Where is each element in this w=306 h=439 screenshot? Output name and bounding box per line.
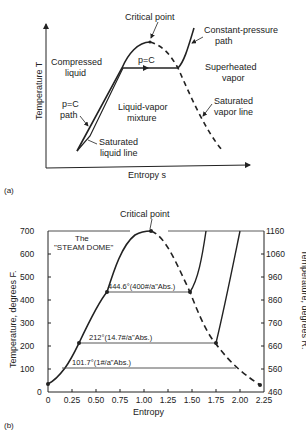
- svg-text:1.50: 1.50: [184, 395, 201, 405]
- svg-text:100: 100: [20, 364, 34, 374]
- b-critical-point-label: Critical point: [120, 209, 170, 219]
- svg-text:1160: 1160: [266, 226, 285, 236]
- a-compressed-liquid-label: Compressed: [51, 57, 102, 67]
- svg-text:0.25: 0.25: [64, 395, 81, 405]
- b-isobar-101-label: 101.7°(1#/a"Abs.): [72, 358, 132, 367]
- svg-text:1.25: 1.25: [160, 395, 177, 405]
- svg-text:0: 0: [46, 395, 51, 405]
- a-superheated-label: Superheated: [205, 62, 257, 72]
- b-panel-label: (b): [4, 421, 14, 430]
- b-superheat-400: [190, 231, 206, 292]
- svg-text:1.75: 1.75: [208, 395, 225, 405]
- a-constant-pressure-label: Constant-pressure: [204, 25, 278, 35]
- diagram-canvas: Critical point Constant-pressure path Co…: [0, 0, 306, 439]
- svg-text:500: 500: [20, 272, 34, 282]
- b-y-axis-right-label: Temperature, degrees R.: [300, 250, 306, 350]
- a-saturated-liquid-label: Saturated: [99, 137, 138, 147]
- a-mixture-label: Liquid-vapor: [118, 102, 168, 112]
- svg-text:0.50: 0.50: [88, 395, 105, 405]
- a-critical-point-dot: [149, 41, 152, 44]
- svg-text:860: 860: [268, 295, 282, 305]
- diagram-a: Critical point Constant-pressure path Co…: [4, 12, 278, 195]
- a-saturated-vapor-label: Saturated: [214, 96, 253, 106]
- svg-text:960: 960: [268, 272, 282, 282]
- b-critical-point-dot: [149, 229, 153, 233]
- svg-text:liquid line: liquid line: [100, 148, 138, 158]
- b-steam-dome-the: The: [75, 234, 89, 243]
- svg-text:600: 600: [20, 249, 34, 259]
- svg-text:1060: 1060: [266, 249, 285, 259]
- b-y-ticks-right: 1160 1060 960 860 760 660 560 460: [261, 226, 285, 397]
- b-steam-dome-label: "STEAM DOME": [54, 243, 114, 252]
- a-x-axis-label: Entropy s: [128, 170, 167, 180]
- svg-text:0: 0: [37, 387, 42, 397]
- a-pc-top-label: p=C: [138, 55, 155, 65]
- a-critical-point-label: Critical point: [125, 12, 175, 22]
- svg-text:300: 300: [20, 318, 34, 328]
- svg-text:vapor: vapor: [222, 73, 245, 83]
- svg-text:vapor line: vapor line: [214, 107, 253, 117]
- b-x-axis-label: Entropy: [133, 407, 165, 417]
- svg-text:560: 560: [268, 364, 282, 374]
- a-saturated-vapor-line: [150, 42, 222, 150]
- svg-text:path: path: [215, 36, 233, 46]
- svg-text:760: 760: [268, 318, 282, 328]
- svg-text:path: path: [60, 110, 78, 120]
- b-superheat-14: [216, 231, 240, 343]
- a-panel-label: (a): [4, 186, 14, 195]
- svg-text:mixture: mixture: [127, 113, 157, 123]
- a-pc-path-label: p=C: [62, 99, 79, 109]
- b-isobar-212-label: 212°(14.7#/a"Abs.): [89, 333, 153, 342]
- a-x-axis: [46, 165, 250, 168]
- a-y-axis-label: Temperature T: [34, 61, 44, 120]
- a-constant-pressure-path: [178, 28, 194, 68]
- b-y-ticks: 700 600 500 400 300 200 100 0: [20, 226, 51, 397]
- svg-text:400: 400: [20, 295, 34, 305]
- b-isobar-444-label: 444.6°(400#/a"Abs.): [108, 282, 176, 291]
- svg-text:2.00: 2.00: [232, 395, 249, 405]
- b-x-ticks: 0 0.25 0.50 0.75 1.00 1.25 1.50 1.75 2.0…: [46, 389, 273, 405]
- b-saturated-vapor-curve: [151, 231, 260, 385]
- svg-text:2.25: 2.25: [256, 395, 273, 405]
- svg-text:700: 700: [20, 226, 34, 236]
- svg-text:200: 200: [20, 341, 34, 351]
- svg-text:liquid: liquid: [65, 68, 86, 78]
- svg-text:660: 660: [268, 341, 282, 351]
- svg-text:0.75: 0.75: [112, 395, 129, 405]
- b-y-axis-label: Temperature, degrees F.: [8, 270, 18, 368]
- chart-b: Critical point 700 600 500 400 300 200 1…: [4, 209, 306, 430]
- svg-text:1.00: 1.00: [136, 395, 153, 405]
